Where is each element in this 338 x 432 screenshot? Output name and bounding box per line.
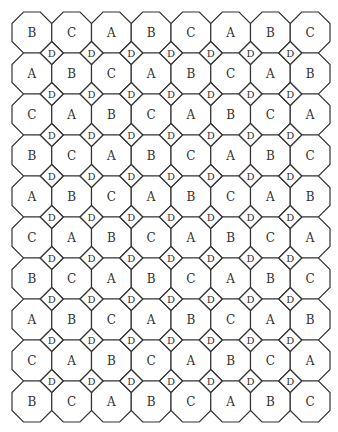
square-label: D [286, 335, 294, 346]
square-label: D [87, 335, 95, 346]
octagon-label: C [266, 354, 275, 368]
square-label: D [48, 89, 56, 100]
octagon-label: C [67, 149, 76, 163]
octagon-label: B [266, 149, 275, 163]
octagon-label: A [305, 231, 315, 245]
octagon-label: A [146, 190, 156, 204]
octagon-label: B [226, 231, 235, 245]
octagon-label: A [146, 67, 156, 81]
octagon-label: C [107, 190, 116, 204]
octagon-label: C [27, 108, 36, 122]
square-label: D [286, 376, 294, 387]
square-label: D [167, 212, 175, 223]
octagon-label: B [107, 354, 116, 368]
square-label: D [207, 376, 215, 387]
square-label: D [167, 130, 175, 141]
square-label: D [207, 335, 215, 346]
square-label: D [207, 130, 215, 141]
square-label: D [167, 376, 175, 387]
octagon-label: C [27, 231, 36, 245]
square-label: D [246, 253, 254, 264]
square-label: D [127, 48, 135, 59]
square-label: D [48, 335, 56, 346]
octagon-label: C [306, 26, 315, 40]
octagon-label: C [226, 67, 235, 81]
octagon-label: A [106, 272, 116, 286]
octagon-label: B [147, 395, 156, 409]
square-label: D [207, 48, 215, 59]
square-label: D [48, 253, 56, 264]
square-label: D [286, 48, 294, 59]
octagon-label: A [106, 149, 116, 163]
square-label: D [246, 376, 254, 387]
octagon-label: B [266, 26, 275, 40]
octagon-label: C [306, 395, 315, 409]
octagon-label: C [226, 313, 235, 327]
square-label: D [286, 89, 294, 100]
square-label: D [246, 294, 254, 305]
square-label: D [286, 253, 294, 264]
octagon-label: A [27, 67, 37, 81]
octagon-label: B [27, 26, 36, 40]
octagon-label: B [67, 67, 76, 81]
square-label: D [127, 253, 135, 264]
square-label: D [87, 130, 95, 141]
square-label: D [48, 171, 56, 182]
octagon-label: A [225, 26, 235, 40]
octagon-label: A [265, 313, 275, 327]
octagon-label: C [186, 149, 195, 163]
octagon-label: C [266, 108, 275, 122]
octagon-label: A [66, 354, 76, 368]
square-label: D [127, 376, 135, 387]
square-label: D [207, 89, 215, 100]
octagon-label: C [186, 272, 195, 286]
octagon-label: A [186, 354, 196, 368]
square-label: D [48, 294, 56, 305]
octagon-label: C [147, 231, 156, 245]
octagon-label: B [27, 149, 36, 163]
octagon-label: B [306, 67, 315, 81]
octagon-label: A [225, 272, 235, 286]
octagon-tiling-diagram: BCABCABCABCABCABCABCABCABCABCABCABCABCAB… [0, 0, 338, 432]
square-label: D [286, 294, 294, 305]
octagon-label: A [186, 108, 196, 122]
octagon-label: A [106, 26, 116, 40]
square-label: D [87, 253, 95, 264]
octagon-label: B [107, 108, 116, 122]
octagon-label: A [225, 149, 235, 163]
octagon-label: B [266, 272, 275, 286]
octagon-label: A [186, 231, 196, 245]
square-label: D [286, 130, 294, 141]
octagon-label: B [107, 231, 116, 245]
square-label: D [246, 212, 254, 223]
octagon-label: B [147, 26, 156, 40]
square-label: D [246, 130, 254, 141]
octagon-label: A [305, 108, 315, 122]
octagon-label: C [107, 313, 116, 327]
octagon-label: A [27, 313, 37, 327]
octagon-label: C [67, 26, 76, 40]
octagon-label: A [27, 190, 37, 204]
square-label: D [127, 130, 135, 141]
square-label: D [286, 171, 294, 182]
octagon-label: C [266, 231, 275, 245]
octagon-label: C [186, 26, 195, 40]
octagon-label: C [186, 395, 195, 409]
octagon-label: A [265, 67, 275, 81]
square-label: D [87, 48, 95, 59]
square-label: D [207, 294, 215, 305]
square-label: D [127, 294, 135, 305]
octagon-label: B [27, 272, 36, 286]
square-label: D [48, 212, 56, 223]
square-label: D [286, 212, 294, 223]
square-label: D [207, 253, 215, 264]
square-label: D [127, 335, 135, 346]
octagon-label: C [67, 272, 76, 286]
octagon-label: A [106, 395, 116, 409]
octagon-label: B [306, 313, 315, 327]
square-label: D [87, 89, 95, 100]
octagon-label: B [186, 67, 195, 81]
square-label: D [246, 171, 254, 182]
octagon-label: B [27, 395, 36, 409]
square-label: D [167, 48, 175, 59]
